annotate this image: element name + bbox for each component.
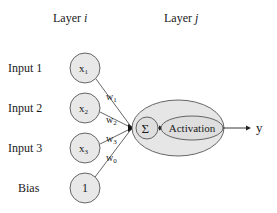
weight-w3: w3 — [106, 133, 117, 146]
input-1-label: Input 1 — [8, 61, 42, 75]
node-bias-text: 1 — [82, 181, 88, 195]
sum-symbol: Σ — [142, 121, 150, 136]
layer-i-header: Layer i — [53, 11, 87, 25]
weight-w2: w2 — [106, 114, 117, 127]
weight-w0: w0 — [106, 152, 117, 165]
activation-label: Activation — [169, 122, 216, 134]
output-label: y — [256, 120, 263, 135]
bias-label: Bias — [18, 181, 40, 195]
perceptron-diagram: Layer i Layer j Input 1 Input 2 Input 3 … — [0, 0, 277, 213]
input-2-label: Input 2 — [8, 101, 42, 115]
input-3-label: Input 3 — [8, 141, 42, 155]
layer-j-header: Layer j — [164, 11, 199, 25]
weight-w1: w1 — [106, 91, 117, 104]
